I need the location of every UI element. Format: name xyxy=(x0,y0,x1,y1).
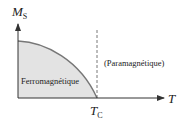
y-axis-label: MS xyxy=(11,4,27,21)
ferromagnetic-label: Ferromagnétique xyxy=(21,76,79,86)
curie-temperature-label: TC xyxy=(90,103,103,120)
phase-diagram: MS T TC Ferromagnétique (Paramagnétique) xyxy=(0,0,188,122)
ferromagnetic-region xyxy=(18,41,97,98)
x-axis-label: T xyxy=(168,91,176,106)
paramagnetic-label: (Paramagnétique) xyxy=(104,58,165,68)
